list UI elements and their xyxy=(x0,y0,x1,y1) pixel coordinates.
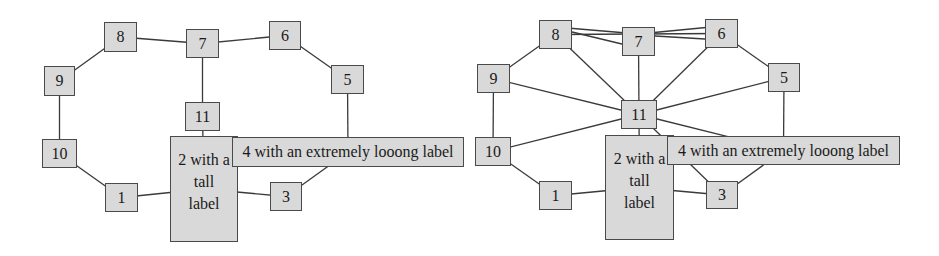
node-5: 5 xyxy=(768,63,800,92)
node-label: 5 xyxy=(780,67,788,89)
node-11: 11 xyxy=(621,100,657,129)
node-1: 1 xyxy=(539,181,572,210)
node-label: 6 xyxy=(718,23,726,45)
node-7: 7 xyxy=(622,27,655,56)
node-6: 6 xyxy=(705,19,738,48)
node-label: 4 with an extremely looong label xyxy=(678,140,889,162)
node-4: 4 with an extremely looong label xyxy=(667,136,900,165)
node-label-line: tall xyxy=(614,170,666,192)
right-graph: 12 with atalllabel35678910114 with an ex… xyxy=(0,0,939,256)
node-label: 10 xyxy=(485,141,501,163)
node-label-line: 2 with a xyxy=(614,148,666,170)
node-label: 2 with atalllabel xyxy=(614,148,666,214)
node-3: 3 xyxy=(706,181,738,209)
edge-n11-n9 xyxy=(494,79,640,115)
edge-n11-n5 xyxy=(639,78,784,115)
node-label: 9 xyxy=(490,68,498,90)
node-8: 8 xyxy=(539,20,572,49)
node-label: 7 xyxy=(635,31,643,53)
node-label: 1 xyxy=(552,185,560,207)
node-2: 2 with atalllabel xyxy=(605,135,674,240)
node-label: 3 xyxy=(718,184,726,206)
node-label-line: label xyxy=(614,192,666,214)
right-graph-edges xyxy=(0,0,939,256)
node-label: 11 xyxy=(631,104,646,126)
node-9: 9 xyxy=(477,64,510,93)
node-10: 10 xyxy=(475,137,511,166)
node-label: 8 xyxy=(552,24,560,46)
